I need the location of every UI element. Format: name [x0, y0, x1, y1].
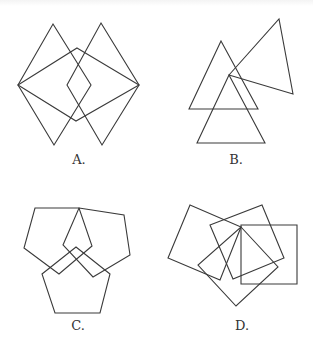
panel-d-square-2 [210, 205, 284, 279]
panel-a-rhombus-3 [18, 48, 139, 121]
panel-a-rhombus-2 [67, 23, 139, 145]
panel-a-rhombus-1 [18, 24, 91, 145]
panel-d-shapes [168, 205, 297, 306]
panel-a-shapes [18, 23, 139, 145]
panel-b-triangle-1 [189, 41, 258, 109]
panel-b-label: B. [229, 153, 243, 166]
figure-canvas [0, 0, 313, 344]
panel-b-triangle-3 [229, 19, 293, 94]
panel-d-square-4 [198, 227, 278, 306]
panel-c-shapes [24, 208, 130, 313]
panel-c-pentagon-3 [42, 247, 110, 313]
panel-c-label: C. [71, 319, 85, 332]
panel-b-shapes [189, 19, 293, 143]
panel-a-label: A. [72, 153, 86, 166]
panel-d-square-1 [168, 205, 241, 280]
panel-c-pentagon-1 [24, 208, 92, 274]
panel-d-label: D. [235, 319, 249, 332]
panel-c-pentagon-2 [63, 208, 130, 277]
